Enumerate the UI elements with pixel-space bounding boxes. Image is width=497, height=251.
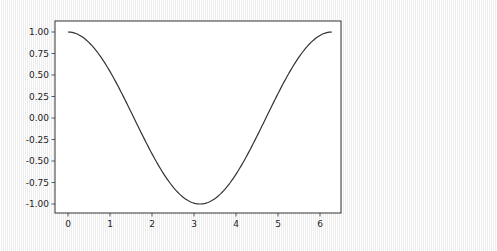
plot-area [55, 21, 341, 213]
y-tick-label: 0.25 [29, 92, 49, 102]
x-axis: 0123456 [65, 213, 323, 229]
x-tick-label: 4 [233, 219, 239, 229]
y-tick-label: 0.75 [29, 49, 49, 59]
y-tick-label: -0.75 [26, 178, 49, 188]
x-tick-label: 0 [65, 219, 71, 229]
y-tick-label: 0.50 [29, 70, 49, 80]
y-axis: 1.000.750.500.250.00-0.25-0.50-0.75-1.00 [26, 27, 55, 209]
x-tick-label: 2 [149, 219, 155, 229]
y-tick-label: 0.00 [29, 113, 49, 123]
x-tick-label: 6 [317, 219, 323, 229]
x-tick-label: 3 [191, 219, 197, 229]
line-chart: 1.000.750.500.250.00-0.25-0.50-0.75-1.00… [0, 0, 497, 251]
chart-figure: 1.000.750.500.250.00-0.25-0.50-0.75-1.00… [0, 0, 497, 251]
y-tick-label: 1.00 [29, 27, 49, 37]
y-tick-label: -1.00 [26, 199, 50, 209]
y-tick-label: -0.50 [26, 156, 50, 166]
x-tick-label: 5 [275, 219, 281, 229]
y-tick-label: -0.25 [26, 135, 49, 145]
x-tick-label: 1 [107, 219, 113, 229]
